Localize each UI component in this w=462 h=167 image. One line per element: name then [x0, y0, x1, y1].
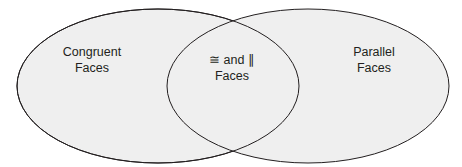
right-set-label-line2: Faces	[353, 60, 395, 76]
left-set-label-line2: Faces	[63, 60, 121, 76]
left-set-label-line1: Congruent	[63, 44, 121, 60]
right-set-label-line1: Parallel	[353, 44, 395, 60]
intersection-label-line1: ≅ and ∥	[209, 52, 255, 68]
left-set-label: Congruent Faces	[63, 44, 121, 76]
intersection-label: ≅ and ∥ Faces	[209, 52, 255, 84]
intersection-label-line2: Faces	[209, 68, 255, 84]
right-set-label: Parallel Faces	[353, 44, 395, 76]
right-set-ellipse	[167, 9, 449, 163]
